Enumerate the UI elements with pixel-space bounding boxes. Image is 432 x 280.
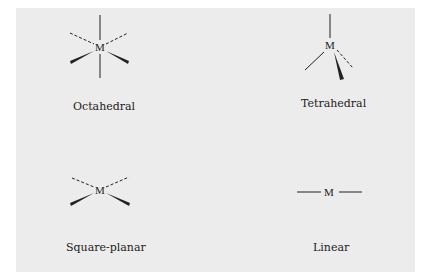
tetrahedral-label: Tetrahedral [301,97,366,110]
geometry-figure-panel: M Octahedral M Tetrahedral M Square-plan… [16,8,415,272]
octahedral-label: Octahedral [73,100,135,113]
tetrahedral-center-atom: M [325,39,335,51]
square-planar-label: Square-planar [66,241,146,254]
linear-label: Linear [313,241,349,254]
square-planar-center-atom: M [95,184,105,196]
linear-structure-icon: M [16,8,17,9]
octahedral-center-atom: M [95,41,105,53]
linear-center-atom: M [324,186,334,198]
